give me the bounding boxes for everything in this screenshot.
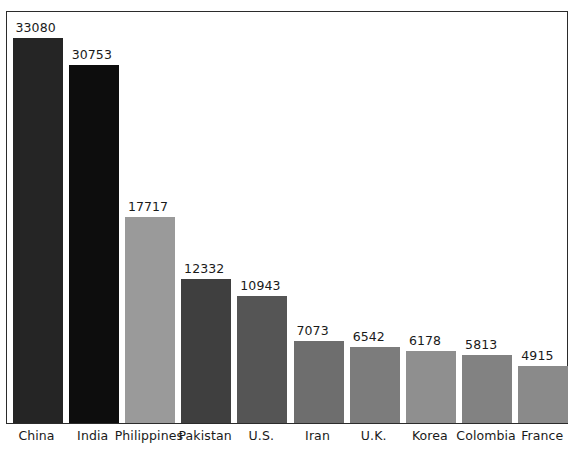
- bar-u-s: [237, 296, 287, 423]
- bar-india: [69, 65, 119, 423]
- bar-colombia: [462, 355, 512, 423]
- value-label: 6178: [409, 333, 441, 348]
- value-label: 12332: [184, 261, 224, 276]
- bar-france: [518, 366, 568, 423]
- value-label: 5813: [465, 337, 497, 352]
- category-axis-labels: ChinaIndiaPhilippinesPakistanU.S.IranU.K…: [6, 428, 568, 454]
- value-label: 6542: [353, 329, 385, 344]
- bar-philippines: [125, 217, 175, 423]
- bar-chart: 3308030753177171233210943707365426178581…: [0, 0, 579, 459]
- value-label: 4915: [521, 348, 553, 363]
- value-label: 30753: [72, 47, 112, 62]
- bar-iran: [294, 341, 344, 423]
- value-label: 33080: [16, 20, 56, 35]
- value-label: 10943: [240, 278, 280, 293]
- category-label-france: France: [506, 428, 578, 443]
- bar-pakistan: [181, 279, 231, 423]
- bar-u-k: [350, 347, 400, 423]
- plot-area-frame: 3308030753177171233210943707365426178581…: [6, 11, 568, 424]
- value-label: 7073: [297, 323, 329, 338]
- bar-korea: [406, 351, 456, 423]
- bar-china: [13, 38, 63, 423]
- value-label: 17717: [128, 199, 168, 214]
